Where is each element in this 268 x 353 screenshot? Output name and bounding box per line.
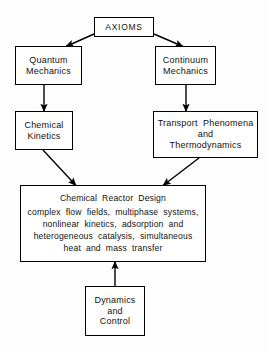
node-transport-phenomena-line-2: and — [198, 129, 214, 140]
node-axioms[interactable]: AXIOMS — [94, 17, 154, 37]
node-chemical-reactor-design-line-2: complex flow fields, multiphase systems, — [28, 206, 199, 218]
edge-axioms-to-quantum-mechanics — [66, 34, 94, 47]
node-chemical-reactor-design-line-3: nonlinear kinetics, adsorption and — [43, 218, 184, 230]
node-dynamics-and-control-line-3: Control — [100, 316, 130, 327]
diagram-canvas: AXIOMS Quantum Mechanics Continuum Mecha… — [0, 0, 268, 353]
node-chemical-reactor-design-line-5: heat and mass transfer — [64, 242, 163, 254]
node-chemical-kinetics[interactable]: Chemical Kinetics — [15, 111, 73, 150]
node-dynamics-and-control-line-2: and — [107, 306, 123, 317]
edge-transport-to-reactor-design — [163, 158, 199, 186]
node-quantum-mechanics[interactable]: Quantum Mechanics — [15, 46, 82, 85]
node-chemical-reactor-design-line-4: heterogeneous catalysis, simultaneous — [34, 230, 193, 242]
node-transport-phenomena-line-3: Thermodynamics — [170, 140, 242, 151]
node-quantum-mechanics-line-1: Quantum — [29, 55, 67, 66]
node-dynamics-and-control-line-1: Dynamics — [94, 295, 135, 306]
node-continuum-mechanics-line-2: Mechanics — [163, 66, 208, 77]
node-chemical-reactor-design-line-1: Chemical Reactor Design — [60, 192, 166, 204]
node-continuum-mechanics[interactable]: Continuum Mechanics — [155, 46, 216, 85]
node-axioms-line-1: AXIOMS — [105, 22, 142, 32]
node-chemical-reactor-design[interactable]: Chemical Reactor Design complex flow fie… — [20, 185, 206, 262]
node-transport-phenomena-line-1: Transport Phenomena — [158, 118, 254, 129]
node-chemical-kinetics-line-2: Kinetics — [27, 131, 60, 142]
edge-chemical-kinetics-to-reactor-design — [43, 150, 76, 186]
node-dynamics-and-control[interactable]: Dynamics and Control — [85, 286, 145, 336]
node-transport-phenomena[interactable]: Transport Phenomena and Thermodynamics — [153, 111, 258, 158]
node-continuum-mechanics-line-1: Continuum — [163, 55, 208, 66]
node-quantum-mechanics-line-2: Mechanics — [26, 66, 71, 77]
node-chemical-kinetics-line-1: Chemical — [24, 120, 63, 131]
edge-axioms-to-continuum-mechanics — [154, 34, 183, 47]
